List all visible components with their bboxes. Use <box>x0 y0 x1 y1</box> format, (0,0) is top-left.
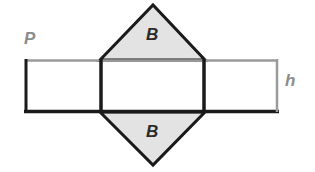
height-label: h <box>285 72 295 89</box>
perimeter-label: P <box>24 30 35 47</box>
base-label-top: B <box>146 26 158 43</box>
base-label-bottom: B <box>146 123 158 140</box>
lateral-surface-rectangle <box>25 60 278 112</box>
prism-net-figure: P h B B <box>0 0 315 172</box>
